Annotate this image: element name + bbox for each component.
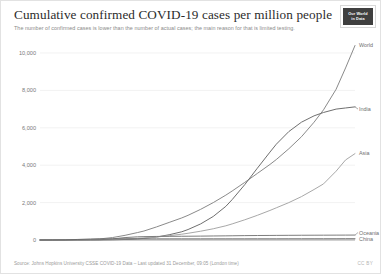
series-line-asia[interactable] [40,154,355,240]
line-chart: 02,0004,0006,0008,00010,000Jan 4, 2020Ma… [0,40,381,245]
license-label: CC BY [357,261,373,266]
y-axis-tick-label: 2,000 [22,200,36,206]
series-label-oceania[interactable]: Oceania [359,230,379,236]
chart-subtitle: The number of confirmed cases is lower t… [14,25,295,32]
y-axis-tick-label: 8,000 [22,87,36,93]
series-label-india[interactable]: India [359,106,371,112]
series-label-connector [355,233,358,236]
y-axis-tick-label: 6,000 [22,125,36,131]
logo-line-2: in Data [351,17,364,22]
y-axis-tick-label: 4,000 [22,162,36,168]
our-world-in-data-logo[interactable]: Our World in Data [341,6,375,27]
series-label-world[interactable]: World [359,42,373,48]
page-title: Cumulative confirmed COVID-19 cases per … [14,7,332,22]
series-line-india[interactable] [40,107,355,240]
series-label-connector [355,107,358,109]
y-axis-tick-label: 0 [33,237,36,243]
chart-plot-area: 02,0004,0006,0008,00010,000Jan 4, 2020Ma… [0,40,381,245]
series-label-asia[interactable]: Asia [359,150,370,156]
series-label-china[interactable]: China [359,236,373,242]
y-axis-tick-label: 10,000 [19,50,36,56]
source-note: Source: Johns Hopkins University CSSE CO… [14,261,239,266]
series-line-world[interactable] [40,46,355,240]
